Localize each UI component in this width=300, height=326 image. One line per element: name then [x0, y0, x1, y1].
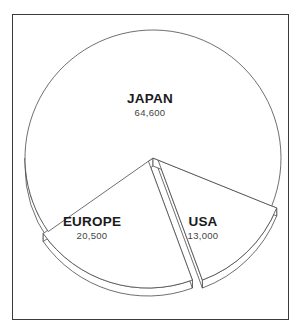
- slice-value-usa: 13,000: [188, 230, 219, 241]
- pie-chart: USA13,000EUROPE20,500JAPAN64,600: [0, 0, 300, 326]
- slice-value-europe: 20,500: [77, 230, 108, 241]
- slice-label-europe: EUROPE: [63, 214, 121, 229]
- slice-label-usa: USA: [188, 214, 217, 229]
- slice-label-japan: JAPAN: [127, 91, 173, 106]
- slice-value-japan: 64,600: [135, 107, 166, 118]
